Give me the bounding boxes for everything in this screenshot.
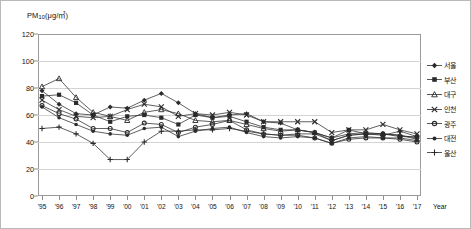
data-point bbox=[108, 120, 112, 124]
data-point bbox=[176, 100, 181, 105]
x-axis-tick-mark bbox=[178, 196, 179, 200]
x-axis-tick-label: '95 bbox=[38, 203, 47, 210]
x-axis-tick-label: '09 bbox=[276, 203, 285, 210]
x-axis-tick-mark bbox=[161, 196, 162, 200]
x-axis-tick-label: '96 bbox=[55, 203, 64, 210]
data-point bbox=[39, 126, 44, 131]
series-5 bbox=[40, 104, 419, 146]
cross-marker-icon bbox=[426, 105, 443, 114]
y-axis-label-unit: (μg/㎥) bbox=[45, 11, 68, 20]
legend-label: 울산 bbox=[444, 148, 456, 158]
x-axis-tick-mark bbox=[247, 196, 248, 200]
x-axis-tick-label: '06 bbox=[225, 203, 234, 210]
x-axis-tick-label: '08 bbox=[259, 203, 268, 210]
legend-item-7[interactable]: 울산 bbox=[426, 146, 471, 161]
y-axis-tick-label: 120 bbox=[22, 30, 34, 39]
x-axis-tick-label: '97 bbox=[72, 203, 81, 210]
data-point bbox=[159, 91, 164, 96]
x-axis-tick-label: '14 bbox=[362, 203, 371, 210]
legend-item-2[interactable]: 부산 bbox=[426, 73, 471, 88]
x-axis-tick-label: '10 bbox=[293, 203, 302, 210]
x-axis-ticks: '95'96'97'98'99'00'01'02'03'04'05'06'07'… bbox=[38, 196, 421, 214]
data-point bbox=[74, 123, 78, 127]
data-point bbox=[57, 93, 61, 97]
x-axis-tick-label: '16 bbox=[396, 203, 405, 210]
legend-label: 대구 bbox=[444, 89, 456, 99]
data-point bbox=[381, 136, 385, 140]
series-6 bbox=[40, 105, 419, 145]
data-point bbox=[313, 136, 317, 140]
data-point bbox=[40, 94, 44, 98]
x-axis-tick-mark bbox=[298, 196, 299, 200]
y-axis-tick-label: 20 bbox=[26, 165, 34, 174]
data-point bbox=[159, 129, 164, 134]
data-point bbox=[177, 135, 181, 139]
legend-label: 광주 bbox=[444, 119, 456, 129]
x-axis-tick-mark bbox=[212, 196, 213, 200]
data-point bbox=[227, 126, 232, 131]
data-point bbox=[73, 131, 78, 136]
legend-label: 대전 bbox=[444, 133, 456, 143]
x-axis-tick-mark bbox=[383, 196, 384, 200]
x-axis-tick-label: '03 bbox=[174, 203, 183, 210]
y-axis-tick-label: 80 bbox=[26, 84, 34, 93]
dot-marker-icon bbox=[426, 134, 443, 143]
data-point bbox=[210, 127, 215, 132]
x-axis-tick-mark bbox=[281, 196, 282, 200]
x-axis-tick-label: '00 bbox=[123, 203, 132, 210]
data-point bbox=[125, 133, 129, 137]
x-axis-tick-label: '11 bbox=[311, 203, 319, 210]
data-point bbox=[142, 113, 146, 117]
plus-marker-icon bbox=[426, 148, 443, 157]
series-canvas bbox=[38, 34, 421, 196]
data-point bbox=[346, 133, 351, 138]
data-point bbox=[91, 129, 95, 133]
chart-figure: PM10(μg/㎥) 020406080100120 '95'96'97'98'… bbox=[0, 0, 471, 229]
x-axis-tick-mark bbox=[127, 196, 128, 200]
y-axis-tick-label: 0 bbox=[30, 192, 34, 201]
chart-svg bbox=[38, 34, 421, 196]
x-axis-tick-mark bbox=[59, 196, 60, 200]
x-axis-tick-label: '07 bbox=[242, 203, 251, 210]
x-axis-label: Year bbox=[433, 203, 447, 210]
circle-marker-icon bbox=[426, 119, 443, 128]
data-point bbox=[57, 116, 61, 120]
x-axis-tick-mark bbox=[42, 196, 43, 200]
x-axis-tick-label: '01 bbox=[140, 203, 149, 210]
legend-item-6[interactable]: 대전 bbox=[426, 131, 471, 146]
x-axis-tick-mark bbox=[144, 196, 145, 200]
legend-label: 인천 bbox=[444, 104, 456, 114]
legend-item-5[interactable]: 광주 bbox=[426, 116, 471, 131]
x-axis-tick-mark bbox=[110, 196, 111, 200]
x-axis-tick-mark bbox=[195, 196, 196, 200]
x-axis-tick-label: '04 bbox=[191, 203, 200, 210]
x-axis-tick-mark bbox=[76, 196, 77, 200]
data-point bbox=[40, 105, 44, 109]
data-point bbox=[56, 124, 61, 129]
x-axis-tick-mark bbox=[264, 196, 265, 200]
triangle-marker-icon bbox=[426, 90, 443, 99]
data-point bbox=[176, 122, 180, 126]
legend-label: 부산 bbox=[444, 75, 456, 85]
plot-area bbox=[38, 34, 421, 196]
data-point bbox=[108, 132, 112, 136]
legend-item-1[interactable]: 서울 bbox=[426, 58, 471, 73]
y-axis-tick-label: 100 bbox=[22, 57, 34, 66]
legend-item-4[interactable]: 인천 bbox=[426, 102, 471, 117]
y-axis-label-base: PM bbox=[27, 11, 38, 20]
x-axis-tick-mark bbox=[366, 196, 367, 200]
square-marker-icon bbox=[426, 75, 443, 84]
x-axis-tick-label: '15 bbox=[379, 203, 388, 210]
series-line bbox=[42, 106, 417, 144]
legend-item-3[interactable]: 대구 bbox=[426, 87, 471, 102]
chart-legend: 서울부산대구인천광주대전울산 bbox=[426, 58, 471, 160]
diamond-marker-icon bbox=[426, 61, 443, 70]
x-axis-tick-label: '99 bbox=[106, 203, 115, 210]
data-point bbox=[74, 101, 78, 105]
x-axis-tick-label: '12 bbox=[327, 203, 336, 210]
x-axis-tick-mark bbox=[230, 196, 231, 200]
y-axis-tick-labels: 020406080100120 bbox=[1, 34, 34, 196]
x-axis-tick-mark bbox=[417, 196, 418, 200]
y-axis-label: PM10(μg/㎥) bbox=[27, 9, 68, 20]
data-point bbox=[40, 98, 45, 103]
